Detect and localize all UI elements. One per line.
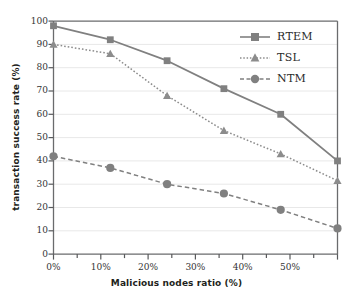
- data-point-marker: [277, 111, 284, 118]
- line-chart: 100 90 80 70 60 50 40 30 20 10 0 0% 10% …: [0, 0, 353, 300]
- y-axis-title: transaction success rate (%): [11, 57, 21, 217]
- y-tick-label: 40: [18, 155, 48, 165]
- data-point-marker: [50, 22, 57, 29]
- data-point-marker: [163, 180, 171, 188]
- x-tick-label: 20%: [128, 262, 168, 272]
- x-tick-label: 0%: [34, 262, 74, 272]
- legend-label: TSL: [272, 51, 300, 64]
- legend-marker-circle-icon: [238, 72, 272, 86]
- y-tick-label: 30: [18, 179, 48, 189]
- legend-item-ntm[interactable]: NTM: [238, 68, 330, 89]
- legend: RTEM TSL NTM: [238, 26, 330, 89]
- data-point-marker: [220, 127, 228, 134]
- legend-item-tsl[interactable]: TSL: [238, 47, 330, 68]
- series-line: [54, 156, 338, 228]
- data-point-marker: [333, 177, 341, 184]
- x-tick-label: 10%: [81, 262, 121, 272]
- y-tick-label: 60: [18, 109, 48, 119]
- x-tick-label: 40%: [223, 262, 263, 272]
- data-point-marker: [107, 36, 114, 43]
- legend-item-rtem[interactable]: RTEM: [238, 26, 330, 47]
- y-tick-label: 70: [18, 85, 48, 95]
- series-ntm: [49, 152, 341, 232]
- legend-label: RTEM: [272, 30, 313, 43]
- x-tick-label: 30%: [175, 262, 215, 272]
- y-tick-label: 10: [18, 225, 48, 235]
- y-tick-label: 0: [18, 249, 48, 259]
- legend-marker-triangle-icon: [238, 51, 272, 65]
- data-point-marker: [220, 189, 228, 197]
- x-axis-ticks: [54, 254, 338, 260]
- data-point-marker: [221, 85, 228, 92]
- legend-label: NTM: [272, 72, 306, 85]
- x-axis-title: Malicious nodes ratio (%): [0, 278, 353, 288]
- y-tick-label: 80: [18, 62, 48, 72]
- y-axis-ticks: [49, 21, 54, 254]
- y-tick-label: 100: [18, 16, 48, 26]
- y-tick-label: 20: [18, 202, 48, 212]
- data-point-marker: [163, 92, 171, 99]
- data-point-marker: [49, 152, 57, 160]
- y-tick-label: 90: [18, 39, 48, 49]
- data-point-marker: [333, 224, 341, 232]
- legend-marker-square-icon: [238, 30, 272, 44]
- data-point-marker: [164, 57, 171, 64]
- data-point-marker: [277, 206, 285, 214]
- data-point-marker: [277, 150, 285, 157]
- data-point-marker: [334, 158, 341, 165]
- y-tick-label: 50: [18, 132, 48, 142]
- x-tick-label: 50%: [270, 262, 310, 272]
- data-point-marker: [106, 164, 114, 172]
